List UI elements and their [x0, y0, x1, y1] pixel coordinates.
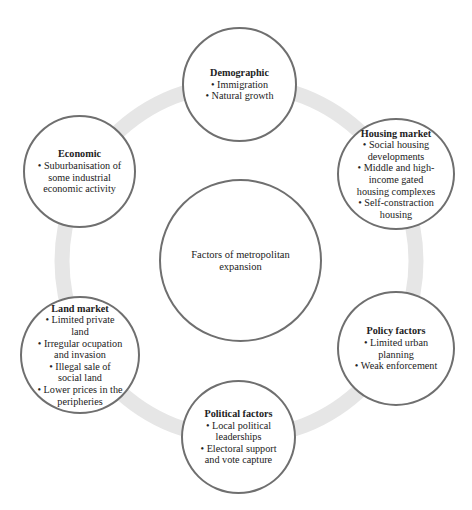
node-title: Land market — [51, 303, 108, 315]
center-label-line2: expansion — [219, 261, 262, 273]
node-item: Natural growth — [205, 90, 273, 102]
center-label-line1: Factors of metropolitan — [191, 249, 290, 261]
node-item: Lower prices in the peripheries — [30, 384, 130, 407]
node-title: Policy factors — [366, 325, 425, 337]
node-title: Housing market — [361, 128, 431, 140]
node-item: Irregular ocupation and invasion — [30, 338, 130, 361]
node-item: Middle and high-income gated housing com… — [352, 162, 440, 197]
node-title: Political factors — [204, 408, 272, 420]
node-policy-factors: Policy factors Limited urban planning We… — [337, 291, 455, 406]
node-demographic: Demographic Immigration Natural growth — [182, 27, 297, 142]
node-item: Suburbanisation of some industrial econo… — [32, 160, 128, 195]
node-title: Economic — [58, 148, 101, 160]
node-item: Social housing developments — [352, 139, 440, 162]
node-item: Immigration — [205, 79, 273, 91]
node-housing-market: Housing market Social housing developmen… — [337, 118, 455, 230]
node-economic: Economic Suburbanisation of some industr… — [23, 115, 136, 228]
node-land-market: Land market Limited private land Irregul… — [20, 296, 140, 414]
node-item: Limited private land — [30, 314, 130, 337]
center-node-metropolitan-expansion: Factors of metropolitan expansion — [159, 179, 322, 342]
node-item: Limited urban planning — [346, 337, 446, 360]
node-item: Self-constraction housing — [352, 197, 440, 220]
node-item: Electoral support and vote capture — [197, 443, 281, 466]
node-item: Local political leaderships — [197, 420, 281, 443]
node-political-factors: Political factors Local political leader… — [181, 380, 296, 494]
node-item: Weak enforcement — [346, 360, 446, 372]
node-item: Illegal sale of social land — [30, 361, 130, 384]
node-title: Demographic — [210, 67, 269, 79]
